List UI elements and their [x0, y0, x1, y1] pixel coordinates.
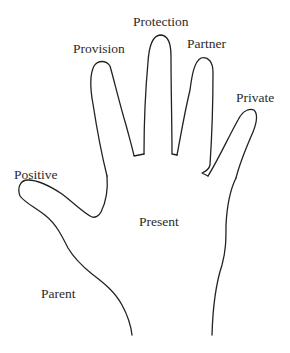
label-partner: Partner [187, 37, 226, 51]
palm-right-edge [212, 178, 236, 335]
label-parent: Parent [41, 287, 76, 301]
label-protection: Protection [133, 15, 189, 29]
thumb-and-left-edge [19, 176, 132, 335]
label-positive: Positive [14, 168, 58, 182]
middle-finger-outline [144, 35, 177, 155]
label-private: Private [236, 91, 274, 105]
label-provision: Provision [73, 42, 125, 56]
label-present: Present [139, 215, 179, 229]
ring-finger-outline [177, 58, 213, 176]
index-finger-outline [91, 62, 144, 177]
little-finger-outline [208, 109, 257, 178]
